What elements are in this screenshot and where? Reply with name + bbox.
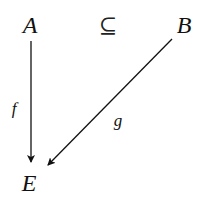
arrow-g: [48, 39, 172, 165]
arrow-g-label: g: [114, 112, 123, 129]
node-e: E: [22, 171, 37, 195]
commutative-diagram: A ⊆ B E f g: [0, 0, 207, 204]
subset-eq-symbol: ⊆: [99, 15, 117, 37]
node-b: B: [177, 13, 192, 37]
arrow-f-label: f: [12, 100, 17, 117]
node-a: A: [23, 13, 38, 37]
